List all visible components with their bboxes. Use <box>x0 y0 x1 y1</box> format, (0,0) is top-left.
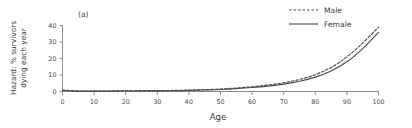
legend-label-female: Female <box>324 20 352 29</box>
y-axis-title: Hazard: % survivors dying each year <box>9 21 28 95</box>
panel-label: (a) <box>78 10 89 19</box>
y-tick-label: 0 <box>52 88 56 96</box>
y-tick-label: 10 <box>48 71 56 79</box>
x-tick-label: 90 <box>343 98 351 106</box>
hazard-chart-figure: 010203040 0102030405060708090100 Age Haz… <box>0 0 412 128</box>
x-tick-label: 10 <box>90 98 98 106</box>
x-tick-label: 100 <box>372 98 384 106</box>
x-tick-label: 40 <box>185 98 193 106</box>
chart-canvas: 010203040 0102030405060708090100 Age Haz… <box>0 0 412 128</box>
series-line-male <box>63 27 379 91</box>
x-tick-label: 70 <box>280 98 288 106</box>
series-line-female <box>63 32 379 91</box>
y-axis-title-line1: Hazard: % survivors <box>9 21 18 95</box>
y-axis-tick-labels: 010203040 <box>48 22 56 96</box>
x-tick-label: 30 <box>153 98 161 106</box>
x-tick-label: 50 <box>216 98 224 106</box>
x-axis-ticks <box>63 92 379 96</box>
x-tick-label: 0 <box>60 98 64 106</box>
x-tick-label: 60 <box>248 98 256 106</box>
x-axis-title: Age <box>210 112 227 122</box>
y-axis-title-line2: dying each year <box>19 27 28 87</box>
y-tick-label: 40 <box>48 22 56 30</box>
y-tick-label: 20 <box>48 55 56 63</box>
x-axis-tick-labels: 0102030405060708090100 <box>60 98 384 106</box>
x-tick-label: 20 <box>122 98 130 106</box>
y-tick-label: 30 <box>48 38 56 46</box>
legend: Male Female <box>289 6 352 29</box>
series-group <box>63 27 379 91</box>
legend-label-male: Male <box>324 6 342 15</box>
axis-group <box>60 26 379 96</box>
x-tick-label: 80 <box>311 98 319 106</box>
